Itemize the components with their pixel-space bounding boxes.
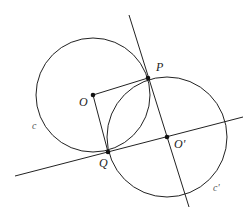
label-circle-c-prime: c' [213,183,220,193]
label-p: P [156,61,163,73]
line-p-o-prime [129,15,189,207]
point-q [106,150,111,155]
geometry-diagram: O P Q O' c c' [0,0,251,223]
point-o-prime [165,135,170,140]
label-q: Q [99,157,108,169]
label-o: O [79,96,88,108]
line-q-o-prime [15,117,243,176]
label-circle-c: c [32,121,36,131]
label-o-prime: O' [174,138,185,150]
segment-o-q [93,95,108,152]
point-p [146,76,151,81]
point-o [91,93,96,98]
segment-o-p [93,78,148,95]
